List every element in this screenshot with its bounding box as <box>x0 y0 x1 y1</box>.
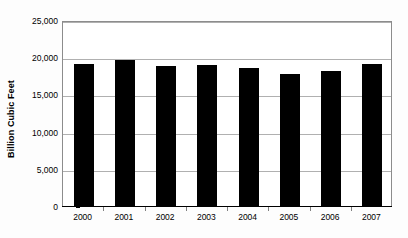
bar-2003[interactable] <box>197 65 217 206</box>
plot-area <box>62 21 392 207</box>
bar-2007[interactable] <box>362 64 382 206</box>
x-axis-tick-mark <box>227 207 228 211</box>
bar-2005[interactable] <box>280 74 300 206</box>
x-axis-tick-mark <box>103 207 104 211</box>
bar-2000[interactable] <box>74 64 94 206</box>
bar-chart: Billion Cubic Feet 05,00010,00015,00020,… <box>0 0 408 238</box>
x-axis-tick-label: 2004 <box>238 212 257 222</box>
x-axis-tick-mark <box>351 207 352 211</box>
x-axis-tick-mark <box>310 207 311 211</box>
x-axis-tick-label: 2006 <box>321 212 340 222</box>
bar-slot <box>146 22 187 206</box>
x-axis-tick-mark <box>268 207 269 211</box>
bar-slot <box>187 22 228 206</box>
x-axis-tick-mark <box>145 207 146 211</box>
y-axis-tick-label: 0 <box>18 202 58 212</box>
x-axis-tick-mark <box>186 207 187 211</box>
bar-slot <box>269 22 310 206</box>
bar-2001[interactable] <box>115 60 135 206</box>
y-axis-tick-label: 5,000 <box>18 165 58 175</box>
x-axis-tick-label: 2002 <box>156 212 175 222</box>
bar-2004[interactable] <box>239 68 259 206</box>
x-axis-tick-label: 2003 <box>197 212 216 222</box>
bar-2006[interactable] <box>321 71 341 206</box>
bar-slot <box>228 22 269 206</box>
x-axis-tick-label: 2001 <box>114 212 133 222</box>
y-axis-tick-label: 25,000 <box>18 16 58 26</box>
x-axis-tick-label: 2005 <box>279 212 298 222</box>
bar-slot <box>104 22 145 206</box>
x-axis-tick-labels: 20002001200220032004200520062007 <box>62 212 392 226</box>
x-axis-tick-marks <box>62 207 392 211</box>
bar-2002[interactable] <box>156 66 176 206</box>
x-axis-tick-label: 2000 <box>73 212 92 222</box>
y-axis-tick-labels: 05,00010,00015,00020,00025,000 <box>18 21 58 207</box>
y-axis-tick-label: 15,000 <box>18 90 58 100</box>
bar-slot <box>352 22 393 206</box>
bar-slot <box>311 22 352 206</box>
y-axis-tick-label: 20,000 <box>18 53 58 63</box>
y-axis-tick-label: 10,000 <box>18 128 58 138</box>
x-axis-tick-label: 2007 <box>362 212 381 222</box>
bars-layer <box>63 22 391 206</box>
bar-slot <box>63 22 104 206</box>
